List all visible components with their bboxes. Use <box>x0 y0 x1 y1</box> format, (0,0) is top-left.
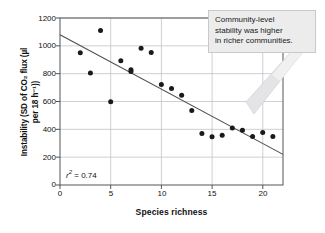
x-axis-ticks <box>60 185 263 189</box>
callout-line-3: in richer communities. <box>215 36 310 47</box>
data-point <box>169 86 174 91</box>
data-point <box>179 93 184 98</box>
data-point <box>270 134 275 139</box>
data-point <box>199 131 204 136</box>
data-point <box>210 134 215 139</box>
data-point <box>189 108 194 113</box>
data-point <box>230 125 235 130</box>
data-point <box>98 28 103 33</box>
data-point <box>88 70 93 75</box>
callout-line-1: Community-level <box>215 15 310 26</box>
callout-box: Community-level stability was higher in … <box>208 10 316 53</box>
data-point <box>250 134 255 139</box>
scatter-plot-figure: Instability (SD of CO₂ flux (µl per 18 h… <box>0 0 325 233</box>
data-point <box>78 50 83 55</box>
callout-line-2: stability was higher <box>215 26 310 37</box>
data-point <box>128 69 133 74</box>
data-point <box>240 128 245 133</box>
data-point <box>220 133 225 138</box>
data-point <box>260 130 265 135</box>
data-point <box>108 99 113 104</box>
data-point <box>159 82 164 87</box>
data-point <box>149 50 154 55</box>
data-point <box>139 46 144 51</box>
y-axis-ticks <box>56 18 60 185</box>
data-point <box>118 58 123 63</box>
regression-trendline <box>60 35 283 155</box>
